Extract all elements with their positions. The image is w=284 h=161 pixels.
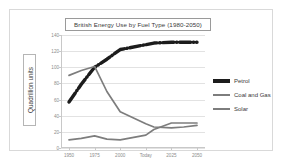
y-tick-label: 100 xyxy=(45,65,59,70)
legend-swatch-solar-icon xyxy=(213,108,230,111)
series-line-solar xyxy=(69,123,197,140)
y-tick-mark xyxy=(59,51,61,52)
y-axis-tick-labels: 020406080100120140 xyxy=(43,35,59,148)
x-tick-mark xyxy=(120,147,121,150)
x-tick-label: 2050 xyxy=(192,153,202,158)
x-axis-tick-labels: 195019752000Today20252050 xyxy=(61,150,205,160)
legend-swatch-coal-and-gas-icon xyxy=(213,94,230,97)
legend-label-petrol: Petrol xyxy=(234,78,250,84)
x-tick-mark xyxy=(197,147,198,150)
y-tick-label: 0 xyxy=(45,146,59,151)
series-line-petrol xyxy=(69,42,197,102)
legend-item-coal-and-gas: Coal and Gas xyxy=(213,88,277,102)
y-tick-label: 80 xyxy=(45,81,59,86)
x-tick-mark xyxy=(146,147,147,150)
legend-item-petrol: Petrol xyxy=(213,74,277,88)
y-axis-title: Quadrillion units xyxy=(26,67,33,113)
gridline xyxy=(61,148,205,149)
y-tick-mark xyxy=(59,132,61,133)
plot-area xyxy=(61,35,205,148)
legend-item-solar: Solar xyxy=(213,102,277,116)
legend-label-solar: Solar xyxy=(234,106,248,112)
y-tick-label: 20 xyxy=(45,129,59,134)
x-tick-label: 2025 xyxy=(166,153,176,158)
y-tick-label: 140 xyxy=(45,33,59,38)
chart-title: British Energy Use by Fuel Type (1980-20… xyxy=(65,18,211,31)
y-tick-mark xyxy=(59,100,61,101)
x-tick-label: 2000 xyxy=(115,153,125,158)
chart-legend: Petrol Coal and Gas Solar xyxy=(213,74,277,116)
y-tick-label: 40 xyxy=(45,113,59,118)
y-tick-mark xyxy=(59,83,61,84)
legend-label-coal-and-gas: Coal and Gas xyxy=(234,92,271,98)
x-tick-mark xyxy=(171,147,172,150)
y-axis-title-box: Quadrillion units xyxy=(23,54,36,126)
chart-frame: British Energy Use by Fuel Type (1980-20… xyxy=(9,9,273,151)
x-tick-mark xyxy=(95,147,96,150)
x-tick-label: 1975 xyxy=(89,153,99,158)
x-tick-label: 1950 xyxy=(64,153,74,158)
y-tick-mark xyxy=(59,116,61,117)
y-tick-mark xyxy=(59,35,61,36)
legend-swatch-petrol-icon xyxy=(213,79,230,82)
y-tick-mark xyxy=(59,148,61,149)
x-tick-mark xyxy=(69,147,70,150)
y-tick-label: 60 xyxy=(45,97,59,102)
series-lines xyxy=(61,35,205,148)
y-tick-label: 120 xyxy=(45,49,59,54)
x-tick-label: Today xyxy=(140,153,152,158)
y-tick-mark xyxy=(59,67,61,68)
